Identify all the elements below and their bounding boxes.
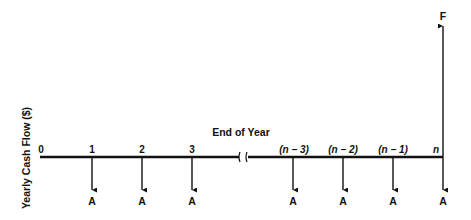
time-label: 2 — [139, 144, 145, 155]
payment-label: A — [389, 195, 397, 207]
time-label: (n − 2) — [328, 144, 358, 155]
payment-label: A — [439, 195, 447, 207]
payment-label: A — [88, 195, 96, 207]
payment-labels: A A A A A A A — [88, 195, 447, 207]
time-label: 1 — [89, 144, 95, 155]
payment-label: A — [188, 195, 196, 207]
cash-flow-diagram: Yearly Cash Flow ($) End of Year 0 1 2 3… — [0, 0, 471, 220]
time-label: 0 — [38, 144, 44, 155]
time-label: 3 — [189, 144, 195, 155]
time-label: (n − 1) — [378, 144, 408, 155]
payment-label: A — [339, 195, 347, 207]
axis-break-icon — [239, 152, 247, 162]
y-axis-label: Yearly Cash Flow ($) — [20, 107, 32, 209]
payment-label: A — [289, 195, 297, 207]
time-label: n — [433, 144, 439, 155]
payment-label: A — [138, 195, 146, 207]
time-labels: 0 1 2 3 (n − 3) (n − 2) (n − 1) n — [38, 144, 439, 155]
time-label: (n − 3) — [279, 144, 309, 155]
payment-arrows — [92, 157, 443, 190]
x-axis-label: End of Year — [212, 126, 270, 138]
future-value-label: F — [440, 10, 447, 22]
